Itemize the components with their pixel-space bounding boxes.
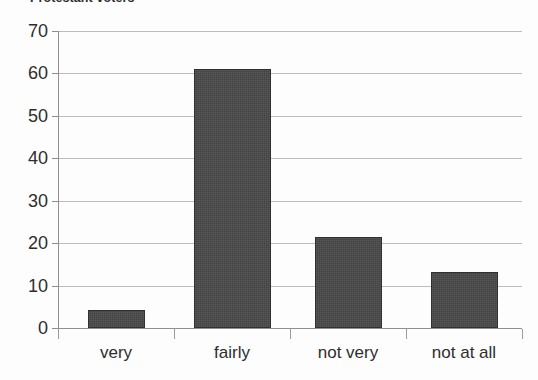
x-axis-tick-label: fairly: [174, 343, 290, 363]
y-axis-tick-label: 60: [4, 63, 48, 84]
x-axis-tick-mark: [174, 329, 175, 339]
gridline: [58, 158, 522, 159]
gridline: [58, 116, 522, 117]
plot-area: [58, 31, 522, 328]
y-axis-tick-mark: [52, 243, 58, 244]
x-axis-tick-label: very: [58, 343, 174, 363]
x-axis-tick-label: not at all: [406, 343, 522, 363]
y-axis-tick-label: 40: [4, 148, 48, 169]
gridline: [58, 73, 522, 74]
gridline: [58, 201, 522, 202]
y-axis-tick-label: 30: [4, 190, 48, 211]
y-axis-tick-label: 0: [4, 318, 48, 339]
y-axis-tick-mark: [52, 158, 58, 159]
gridline: [58, 243, 522, 244]
y-axis-tick-mark: [52, 116, 58, 117]
y-axis-tick-label: 20: [4, 233, 48, 254]
y-axis-tick-label: 70: [4, 21, 48, 42]
y-axis-tick-mark: [52, 201, 58, 202]
y-axis-tick-mark: [52, 73, 58, 74]
chart-screenshot: Protestant voters 010203040506070 veryfa…: [0, 0, 538, 380]
x-axis-tick-mark: [406, 329, 407, 339]
x-axis-tick-mark: [522, 329, 523, 339]
x-axis-tick-mark: [290, 329, 291, 339]
y-axis-tick-label: 50: [4, 105, 48, 126]
x-axis-tick-mark: [58, 329, 59, 339]
y-axis-line: [58, 31, 59, 329]
bar: [88, 310, 145, 328]
y-axis-tick-label: 10: [4, 275, 48, 296]
y-axis-tick-mark: [52, 31, 58, 32]
y-axis-tick-mark: [52, 286, 58, 287]
bar: [315, 237, 382, 328]
y-axis-tick-labels: 010203040506070: [0, 0, 48, 380]
bar: [194, 69, 271, 328]
x-axis-tick-label: not very: [290, 343, 406, 363]
gridline: [58, 31, 522, 32]
bar: [431, 272, 498, 328]
